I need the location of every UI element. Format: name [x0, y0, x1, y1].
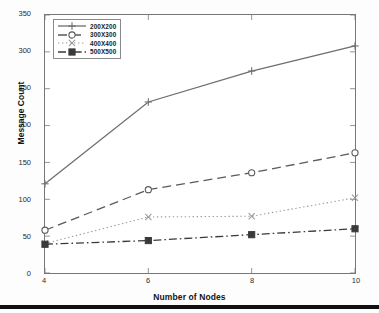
- legend-label: 500X500: [90, 48, 116, 55]
- y-axis-title: Message Count: [16, 48, 26, 178]
- x-axis-title: Number of Nodes: [0, 292, 379, 302]
- series-200X200: [41, 42, 358, 187]
- chart-legend: 200X200300X300400X400500X500: [53, 19, 121, 59]
- y-tick-0: 0: [5, 270, 31, 278]
- y-tick-50: 50: [5, 233, 31, 241]
- legend-sample-square-icon: [57, 48, 87, 56]
- x-tick-6: 6: [136, 277, 160, 285]
- series-300X300: [42, 150, 358, 234]
- legend-item-200X200: 200X200: [57, 22, 116, 31]
- series-500X500: [42, 226, 358, 248]
- y-tick-350: 350: [5, 10, 31, 18]
- y-tick-100: 100: [5, 196, 31, 204]
- x-tick-4: 4: [32, 277, 56, 285]
- x-tick-8: 8: [240, 277, 264, 285]
- legend-label: 200X200: [90, 23, 116, 30]
- legend-item-300X300: 300X300: [57, 31, 116, 40]
- legend-item-400X400: 400X400: [57, 39, 116, 48]
- x-tick-10: 10: [344, 277, 368, 285]
- legend-sample-plus-icon: [57, 22, 87, 30]
- legend-item-500X500: 500X500: [57, 48, 116, 57]
- series-400X400: [42, 195, 358, 247]
- series-layer: [41, 42, 358, 247]
- bottom-rule: [0, 305, 379, 309]
- figure-container: 050100150200250300350 46810 200X200300X3…: [0, 0, 379, 313]
- legend-label: 300X300: [90, 31, 116, 38]
- legend-sample-circle-icon: [57, 31, 87, 39]
- legend-label: 400X400: [90, 40, 116, 47]
- legend-sample-x-icon: [57, 39, 87, 47]
